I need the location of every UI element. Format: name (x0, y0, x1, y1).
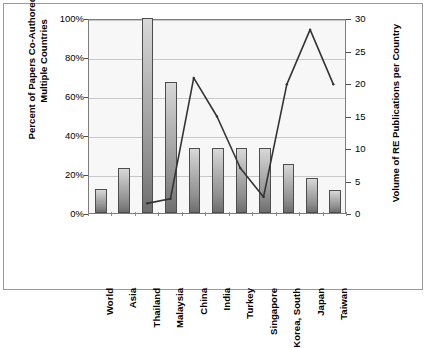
x-axis-tickmark (323, 212, 324, 216)
left-axis-tick-label: 40% (44, 131, 84, 140)
right-axis-tick-label: 10 (355, 144, 366, 153)
x-axis-categories: WorldAsiaThailandMalaysiaChinaIndiaTurke… (88, 216, 346, 290)
left-axis-tick-label: 100% (44, 14, 84, 23)
x-axis-category-label: Malaysia (174, 288, 185, 328)
left-axis-tick-label: 60% (44, 92, 84, 101)
left-axis-tick-label: 80% (44, 53, 84, 62)
line-series-path (147, 30, 333, 204)
line-series (89, 20, 345, 213)
right-axis-tick-label: 15 (355, 112, 366, 121)
line-marker (332, 83, 334, 85)
x-axis-category-label: China (198, 288, 209, 315)
x-axis-category-label: Japan (315, 288, 326, 316)
right-axis-tick-label: 30 (355, 14, 366, 23)
line-marker (216, 115, 218, 117)
left-axis-title-container: Percent of Papers Co-Authored by Multipl… (10, 19, 38, 214)
x-axis-category-label: Asia (127, 288, 138, 308)
right-axis-tick-label: 5 (355, 177, 360, 186)
x-axis-tickmark (276, 212, 277, 216)
right-axis-tickmark (346, 149, 351, 150)
right-axis-ticks: 051015202530 (346, 19, 386, 214)
x-axis-tickmark (111, 212, 112, 216)
right-axis-tick-label: 0 (355, 209, 360, 218)
left-axis-tick-label: 0% (44, 209, 84, 218)
plot-area (88, 19, 346, 214)
x-axis-category-label: Taiwan (338, 288, 349, 320)
left-axis-ticks: 0%20%40%60%80%100% (40, 19, 84, 214)
x-axis-tickmark (252, 212, 253, 216)
line-marker (286, 83, 288, 85)
line-marker (239, 167, 241, 169)
x-axis-tickmark (182, 212, 183, 216)
x-axis-category-label: India (221, 288, 232, 310)
x-axis-tickmark (88, 212, 89, 216)
line-marker (193, 77, 195, 79)
x-axis-tickmark (346, 212, 347, 216)
x-axis-tickmark (229, 212, 230, 216)
left-axis-tick-label: 20% (44, 170, 84, 179)
x-axis-tickmark (205, 212, 206, 216)
x-axis-tickmark (135, 212, 136, 216)
x-axis-category-label: World (104, 288, 115, 315)
right-axis-tickmark (346, 182, 351, 183)
right-axis-tickmark (346, 52, 351, 53)
line-marker (309, 28, 311, 30)
line-marker (262, 196, 264, 198)
right-axis-tickmark (346, 117, 351, 118)
right-axis-title-container: Volume of RE Publications per Country (382, 19, 410, 214)
x-axis-category-label: Thailand (151, 288, 162, 327)
right-axis-title: Volume of RE Publications per Country (390, 23, 402, 203)
right-axis-tick-label: 20 (355, 79, 366, 88)
x-axis-tickmark (158, 212, 159, 216)
right-axis-tick-label: 25 (355, 47, 366, 56)
right-axis-tickmark (346, 19, 351, 20)
x-axis-category-label: Singapore (268, 288, 279, 335)
line-marker (146, 202, 148, 204)
right-axis-tickmark (346, 84, 351, 85)
x-axis-category-label: Korea, South (291, 288, 302, 348)
line-marker (169, 198, 171, 200)
x-axis-category-label: Turkey (244, 288, 255, 319)
x-axis-tickmark (299, 212, 300, 216)
